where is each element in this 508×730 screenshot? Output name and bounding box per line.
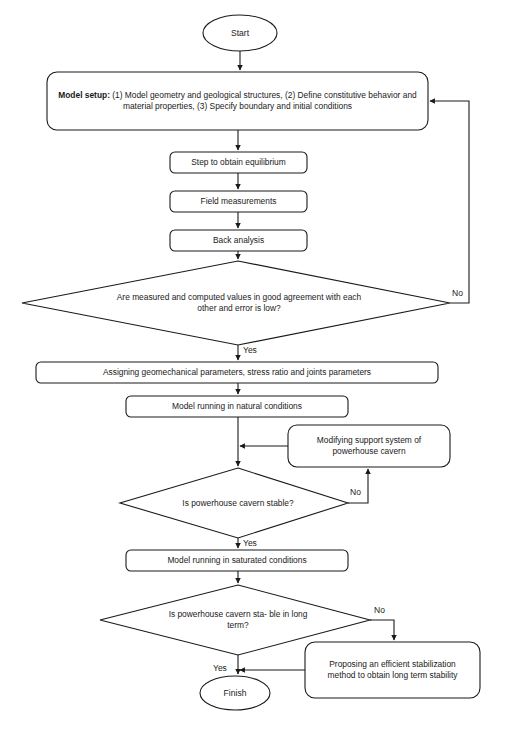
edge-decision3-no bbox=[370, 620, 394, 640]
node-proposing-stabilization-shape bbox=[305, 642, 480, 698]
edge-decision1-no-feedback bbox=[430, 101, 469, 303]
node-model-natural-shape bbox=[126, 396, 348, 417]
node-modifying-support-shape bbox=[288, 425, 450, 467]
node-decision-stable-shape bbox=[120, 468, 348, 538]
node-finish-shape bbox=[200, 676, 270, 710]
node-field-measurements-shape bbox=[170, 191, 307, 212]
node-model-saturated-shape bbox=[126, 550, 348, 571]
flowchart-canvas: Start Model setup: (1) Model geometry an… bbox=[0, 0, 508, 730]
flowchart-shapes bbox=[0, 0, 508, 730]
node-start-shape bbox=[203, 15, 277, 51]
edge-decision2-no bbox=[348, 469, 368, 503]
node-assigning-params-shape bbox=[36, 362, 438, 383]
node-decision-agreement-shape bbox=[22, 261, 450, 345]
node-model-setup-shape bbox=[47, 72, 428, 130]
node-step-equilibrium-shape bbox=[170, 152, 307, 173]
node-back-analysis-shape bbox=[170, 230, 307, 251]
